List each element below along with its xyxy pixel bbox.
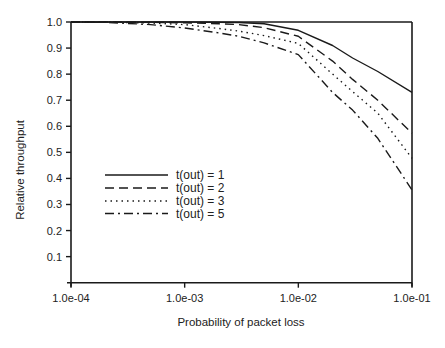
line-chart: 0.10.20.30.40.50.60.70.80.91.0 1.0e-041.…	[0, 0, 445, 348]
legend: t(out) = 1t(out) = 2t(out) = 3t(out) = 5	[105, 168, 225, 221]
y-tick-label: 0.2	[47, 225, 62, 237]
y-tick-label: 0.1	[47, 251, 62, 263]
legend-item: t(out) = 2	[105, 181, 225, 195]
x-axis-title: Probability of packet loss	[177, 316, 304, 328]
y-tick-label: 0.5	[47, 146, 62, 158]
series-group	[71, 22, 412, 190]
x-axis: 1.0e-041.0e-031.0e-021.0e-01	[52, 283, 430, 304]
legend-item: t(out) = 5	[105, 207, 225, 221]
y-tick-label: 0.7	[47, 94, 62, 106]
x-tick-label: 1.0e-02	[280, 292, 317, 304]
legend-label: t(out) = 2	[176, 181, 225, 195]
x-tick-label: 1.0e-04	[52, 292, 89, 304]
series-line-2	[71, 22, 412, 133]
x-tick-label: 1.0e-01	[393, 292, 430, 304]
y-tick-label: 0.8	[47, 68, 62, 80]
y-tick-label: 0.6	[47, 120, 62, 132]
y-axis-title: Relative throughput	[14, 119, 26, 220]
x-tick-label: 1.0e-03	[166, 292, 203, 304]
y-axis: 0.10.20.30.40.50.60.70.80.91.0	[47, 16, 71, 263]
y-tick-label: 0.3	[47, 198, 62, 210]
legend-item: t(out) = 1	[105, 168, 225, 182]
y-tick-label: 0.9	[47, 42, 62, 54]
y-tick-label: 0.4	[47, 172, 62, 184]
legend-label: t(out) = 1	[176, 168, 225, 182]
series-line-1	[71, 22, 412, 92]
legend-label: t(out) = 5	[176, 207, 225, 221]
series-line-3	[71, 22, 412, 158]
y-tick-label: 1.0	[47, 16, 62, 28]
series-line-4	[71, 22, 412, 190]
